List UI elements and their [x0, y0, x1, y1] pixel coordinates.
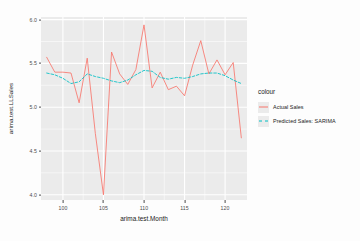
x-tick-label: 115 — [180, 205, 189, 211]
plot-panel — [41, 17, 247, 200]
x-axis-title: arima.test.Month — [41, 215, 247, 222]
legend-title: colour — [258, 88, 358, 95]
x-tick-mark — [184, 200, 185, 203]
x-axis: 100105110115120 — [41, 200, 247, 216]
x-tick-label: 100 — [58, 205, 67, 211]
legend-key-icon — [258, 116, 269, 127]
x-tick-label: 120 — [221, 205, 230, 211]
x-tick-mark — [144, 200, 145, 203]
legend: colour Actual SalesPredicted Sales: SARI… — [258, 88, 358, 129]
x-tick-label: 105 — [99, 205, 108, 211]
y-axis-title: arima.test.LLSales — [5, 17, 17, 200]
x-tick-mark — [225, 200, 226, 203]
y-tick-label: 4.0 — [29, 192, 37, 198]
plot-area — [41, 17, 247, 200]
legend-items: Actual SalesPredicted Sales: SARIMA — [258, 101, 358, 127]
x-tick-mark — [62, 200, 63, 203]
y-tick-label: 4.5 — [29, 148, 37, 154]
legend-item-0[interactable]: Actual Sales — [258, 101, 358, 113]
y-tick-label: 6.0 — [29, 17, 37, 23]
legend-item-label: Actual Sales — [273, 104, 304, 110]
y-tick-label: 5.5 — [29, 60, 37, 66]
chart-figure: 6.05.55.04.54.0 arima.test.LLSales 10010… — [0, 0, 360, 241]
legend-item-label: Predicted Sales: SARIMA — [273, 118, 336, 124]
x-tick-label: 110 — [140, 205, 149, 211]
y-tick-label: 5.0 — [29, 104, 37, 110]
legend-item-1[interactable]: Predicted Sales: SARIMA — [258, 115, 358, 127]
legend-key-icon — [258, 102, 269, 113]
x-tick-mark — [103, 200, 104, 203]
